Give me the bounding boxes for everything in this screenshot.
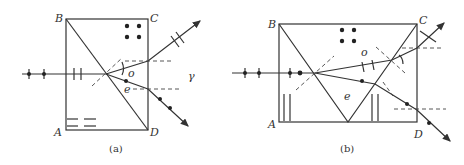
- label-B-a: B: [54, 12, 63, 25]
- label-e-b: e: [344, 90, 351, 103]
- label-gamma-a: γ: [188, 70, 195, 83]
- normal-a: [92, 58, 122, 86]
- normal-b-3: [383, 82, 393, 96]
- label-e-a: e: [124, 83, 131, 96]
- label-C-b: C: [419, 14, 428, 27]
- label-o-a: o: [128, 67, 135, 80]
- caption-b: (b): [340, 143, 354, 154]
- label-A-b: A: [267, 118, 276, 131]
- label-A-a: A: [53, 126, 62, 139]
- label-C-a: C: [150, 12, 159, 25]
- optic-axis-lines-a: [67, 119, 96, 126]
- label-B-b: B: [267, 18, 276, 31]
- label-D-a: D: [149, 126, 159, 139]
- e-ray-b: [315, 73, 450, 141]
- caption-a: (a): [109, 143, 123, 154]
- label-D-b: D: [413, 128, 423, 141]
- birefringent-prism-diagrams: B C A D o e γ (a): [0, 0, 464, 165]
- o-ray-a: [106, 21, 200, 74]
- figure-b: B C A D o e (b): [232, 14, 450, 154]
- label-o-b: o: [361, 46, 368, 59]
- optic-axis-dots-a: [125, 24, 141, 39]
- e-ray-a: [106, 74, 188, 126]
- optic-axis-dots-b: [340, 28, 356, 43]
- figure-a: B C A D o e γ (a): [22, 12, 200, 154]
